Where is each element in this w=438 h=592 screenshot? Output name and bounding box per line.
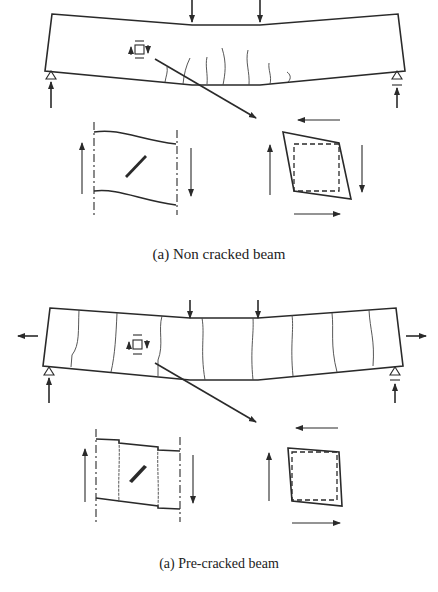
crack xyxy=(202,318,205,380)
crack xyxy=(183,58,190,84)
crack xyxy=(332,313,337,372)
crack xyxy=(222,48,225,85)
crack xyxy=(287,72,290,82)
beam-diagram xyxy=(0,0,438,592)
diagonal-crack xyxy=(129,465,147,483)
caption-non-cracked: (a) Non cracked beam xyxy=(0,246,438,263)
beam-outline xyxy=(43,308,403,380)
crack xyxy=(269,63,271,84)
stress-element-icon xyxy=(131,41,148,58)
crack xyxy=(71,310,79,367)
crack xyxy=(206,57,207,84)
caption-pre-cracked: (a) Pre-cracked beam xyxy=(0,556,438,572)
pre-cracked-beam xyxy=(18,300,426,523)
support-right xyxy=(390,367,400,403)
pointer-arrow xyxy=(155,59,256,118)
support-left xyxy=(46,71,56,108)
crack xyxy=(111,313,117,372)
non-cracked-beam xyxy=(45,0,405,215)
pointer-arrow xyxy=(155,363,256,422)
crack xyxy=(247,50,249,85)
diagonal-crack xyxy=(125,155,147,178)
inset-deformed-segment xyxy=(82,122,191,215)
crack xyxy=(369,310,373,366)
crack xyxy=(292,315,293,376)
crack xyxy=(252,318,253,380)
crack xyxy=(165,67,167,82)
support-right xyxy=(392,71,402,108)
inset-shear-element xyxy=(269,428,342,523)
support-left xyxy=(44,367,54,403)
inset-cracked-segments xyxy=(85,429,193,522)
inset-shear-element xyxy=(270,120,362,214)
stress-element-icon xyxy=(129,335,147,354)
